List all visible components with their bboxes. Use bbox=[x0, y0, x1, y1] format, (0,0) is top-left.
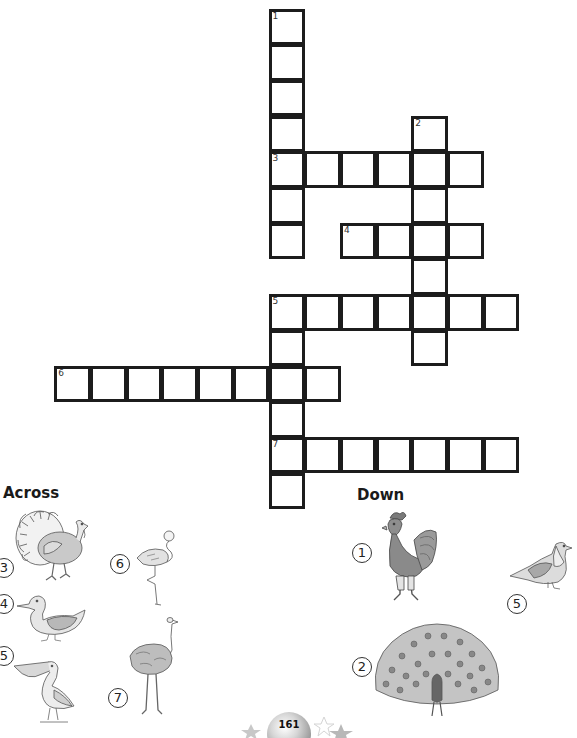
clue-number-label: 2 bbox=[415, 118, 421, 128]
crossword-cell[interactable] bbox=[376, 437, 413, 474]
crossword-cell[interactable]: 1 bbox=[269, 9, 306, 46]
crossword-cell[interactable] bbox=[269, 187, 306, 224]
crossword-cell[interactable] bbox=[340, 294, 377, 331]
crossword-cell[interactable] bbox=[411, 294, 448, 331]
crossword-cell[interactable]: 5 bbox=[269, 294, 306, 331]
crossword-cell[interactable] bbox=[411, 223, 448, 260]
pigeon-icon bbox=[508, 538, 576, 592]
crossword-cell[interactable]: 4 bbox=[340, 223, 377, 260]
crossword-cell[interactable] bbox=[269, 330, 306, 367]
clue-number-label: 5 bbox=[273, 296, 279, 306]
crossword-cell[interactable] bbox=[447, 151, 484, 188]
crossword-cell[interactable] bbox=[304, 151, 341, 188]
clue-number-across-4: 4 bbox=[0, 594, 14, 614]
crossword-cell[interactable] bbox=[269, 366, 306, 403]
crossword-cell[interactable]: 7 bbox=[269, 437, 306, 474]
crossword-cell[interactable] bbox=[411, 330, 448, 367]
clue-number-label: 4 bbox=[344, 225, 350, 235]
crossword-cell[interactable] bbox=[233, 366, 270, 403]
crossword-cell[interactable] bbox=[304, 366, 341, 403]
rooster-icon bbox=[380, 510, 442, 606]
clue-number-down-5: 5 bbox=[507, 594, 527, 614]
clue-number-label: 3 bbox=[273, 153, 279, 163]
crossword-cell[interactable] bbox=[269, 223, 306, 260]
crossword-cell[interactable] bbox=[411, 437, 448, 474]
clue-number-label: 6 bbox=[58, 368, 64, 378]
crossword-cell[interactable] bbox=[483, 294, 520, 331]
page-number: 161 bbox=[279, 719, 300, 730]
crossword-cell[interactable] bbox=[447, 294, 484, 331]
crossword-cell[interactable] bbox=[304, 437, 341, 474]
crossword-cell[interactable] bbox=[269, 80, 306, 117]
crossword-cell[interactable] bbox=[340, 151, 377, 188]
crossword-cell[interactable]: 6 bbox=[54, 366, 91, 403]
peacock-icon bbox=[372, 620, 502, 720]
crossword-cell[interactable] bbox=[269, 473, 306, 510]
crossword-cell[interactable] bbox=[90, 366, 127, 403]
crossword-cell[interactable]: 2 bbox=[411, 116, 448, 153]
crossword-cell[interactable] bbox=[411, 151, 448, 188]
crossword-cell[interactable] bbox=[447, 437, 484, 474]
crossword-cell[interactable]: 3 bbox=[269, 151, 306, 188]
crossword-cell[interactable] bbox=[340, 437, 377, 474]
clue-number-label: 1 bbox=[273, 11, 279, 21]
crossword-page: 1324576 Across 3 4 5 bbox=[0, 0, 577, 738]
down-heading: Down bbox=[357, 486, 404, 504]
crossword-cell[interactable] bbox=[447, 223, 484, 260]
crossword-cell[interactable] bbox=[269, 116, 306, 153]
pelican-icon bbox=[12, 660, 76, 728]
crossword-cell[interactable] bbox=[411, 258, 448, 295]
clue-number-across-7: 7 bbox=[108, 688, 128, 708]
crossword-cell[interactable] bbox=[483, 437, 520, 474]
duck-icon bbox=[15, 592, 90, 642]
star-decoration-icon bbox=[328, 724, 354, 738]
across-heading: Across bbox=[3, 484, 59, 502]
clue-number-down-1: 1 bbox=[352, 543, 372, 563]
crossword-cell[interactable] bbox=[126, 366, 163, 403]
crossword-cell[interactable] bbox=[161, 366, 198, 403]
crossword-grid: 1324576 bbox=[0, 0, 577, 520]
clue-number-down-2: 2 bbox=[352, 657, 372, 677]
clue-number-across-3: 3 bbox=[0, 558, 14, 578]
crossword-cell[interactable] bbox=[269, 44, 306, 81]
star-decoration-icon bbox=[240, 724, 262, 738]
flamingo-icon bbox=[133, 528, 183, 608]
crossword-cell[interactable] bbox=[304, 294, 341, 331]
crossword-cell[interactable] bbox=[376, 223, 413, 260]
crossword-cell[interactable] bbox=[376, 294, 413, 331]
clue-number-across-6: 6 bbox=[110, 554, 130, 574]
crossword-cell[interactable] bbox=[197, 366, 234, 403]
crossword-cell[interactable] bbox=[411, 187, 448, 224]
turkey-icon bbox=[14, 508, 94, 583]
clue-number-label: 7 bbox=[273, 439, 279, 449]
ostrich-icon bbox=[126, 616, 186, 716]
crossword-cell[interactable] bbox=[376, 151, 413, 188]
page-number-badge: 161 bbox=[267, 712, 311, 738]
crossword-cell[interactable] bbox=[269, 401, 306, 438]
